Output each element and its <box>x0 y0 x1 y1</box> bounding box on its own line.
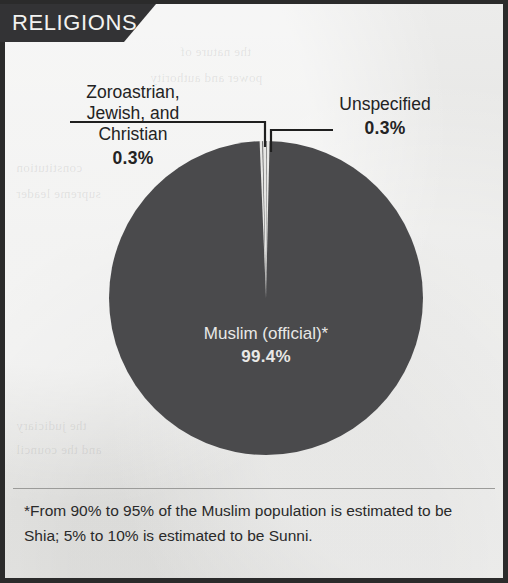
footnote-text: *From 90% to 95% of the Muslim populatio… <box>24 498 486 548</box>
card-border-bottom <box>0 578 508 583</box>
footnote-divider <box>13 488 495 489</box>
callout-right-value: 0.3% <box>310 118 460 139</box>
callout-right-name: Unspecified <box>339 94 430 114</box>
card-border-top <box>0 0 508 4</box>
callout-left-value: 0.3% <box>58 148 208 169</box>
pie-chart: Zoroastrian, Jewish, and Christian 0.3% … <box>0 42 508 488</box>
callout-label-right: Unspecified 0.3% <box>310 94 460 139</box>
center-label-name: Muslim (official)* <box>204 324 328 343</box>
page-title: RELIGIONS <box>0 10 137 36</box>
religions-card: the nature of power and authority consti… <box>0 0 508 583</box>
callout-label-left: Zoroastrian, Jewish, and Christian 0.3% <box>58 82 208 169</box>
center-label-value: 99.4% <box>138 345 394 368</box>
pie-center-label: Muslim (official)* 99.4% <box>138 322 394 368</box>
callout-left-name: Zoroastrian, Jewish, and Christian <box>86 82 179 144</box>
section-banner: RELIGIONS <box>0 4 156 42</box>
